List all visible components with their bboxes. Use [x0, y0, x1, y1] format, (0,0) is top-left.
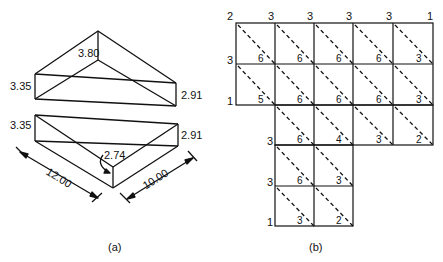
cell-value: 4	[336, 135, 342, 145]
cell-value: 3	[297, 216, 303, 226]
cell-value: 6	[297, 95, 303, 105]
cell-value: 3	[336, 176, 342, 186]
top-node-label: 2	[227, 11, 233, 22]
cell-value: 6	[297, 176, 303, 186]
cell-value: 6	[297, 135, 303, 145]
cell-value: 6	[297, 54, 303, 64]
left-node-label: 1	[227, 96, 233, 107]
cell-value: 6	[376, 95, 382, 105]
top-node-label: 3	[386, 11, 392, 22]
cell-value: 3	[416, 95, 422, 105]
left-node-label: 3	[267, 136, 273, 147]
cell-value: 5	[258, 95, 264, 105]
top-node-label: 1	[427, 11, 433, 22]
cell-value: 6	[376, 54, 382, 64]
cell-value: 2	[416, 135, 422, 145]
left-node-label: 3	[267, 177, 273, 188]
cell-value: 3	[376, 135, 382, 145]
figure-b-caption: (b)	[309, 242, 322, 253]
cell-value: 3	[416, 54, 422, 64]
top-node-label: 3	[346, 11, 352, 22]
cell-value: 6	[336, 95, 342, 105]
cell-value: 6	[336, 54, 342, 64]
top-node-label: 3	[307, 11, 313, 22]
left-node-label: 3	[227, 55, 233, 66]
top-node-label: 3	[268, 11, 274, 22]
cell-value: 6	[258, 54, 264, 64]
left-node-label: 1	[267, 217, 273, 228]
figure-b-grid	[0, 0, 443, 262]
cell-value: 2	[336, 216, 342, 226]
